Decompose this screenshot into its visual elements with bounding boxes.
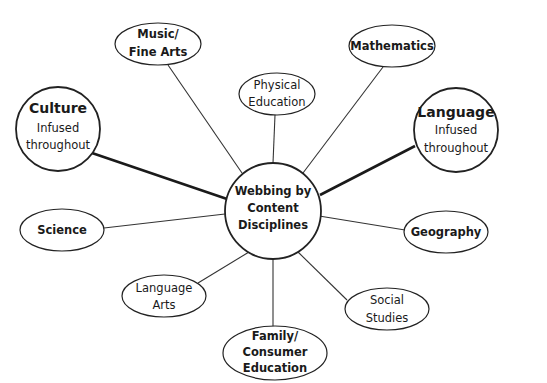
language-arts-line-1: Language bbox=[136, 281, 193, 295]
physical-line-1: Physical bbox=[254, 78, 301, 92]
language-arts-line-2: Arts bbox=[152, 298, 175, 312]
music-line-1: Music/ bbox=[137, 27, 179, 41]
physical-line-2: Education bbox=[248, 95, 305, 109]
social-studies-line-2: Studies bbox=[366, 311, 409, 325]
culture-line-1: Infused bbox=[37, 121, 79, 135]
center-line-3: Disciplines bbox=[238, 218, 308, 232]
family-consumer-education-node: Family/ Consumer Education bbox=[223, 326, 327, 380]
culture-line-2: throughout bbox=[26, 138, 91, 152]
culture-title: Culture bbox=[29, 100, 87, 116]
language-line-2: throughout bbox=[424, 141, 489, 155]
connector-culture bbox=[92, 153, 227, 199]
family-line-2: Consumer bbox=[242, 345, 307, 359]
family-line-3: Education bbox=[243, 361, 307, 375]
social-studies-node: Social Studies bbox=[345, 288, 429, 330]
geography-line-1: Geography bbox=[411, 225, 482, 239]
connector-language-arts bbox=[198, 252, 249, 283]
language-node: Language Infused throughout bbox=[414, 88, 498, 172]
center-line-1: Webbing by bbox=[235, 184, 312, 198]
connector-music bbox=[168, 65, 242, 173]
connector-science bbox=[104, 214, 225, 228]
music-node: Music/ Fine Arts bbox=[115, 23, 201, 65]
music-line-2: Fine Arts bbox=[129, 45, 188, 59]
connector-language bbox=[320, 146, 415, 195]
science-node: Science bbox=[20, 209, 104, 251]
concept-web-diagram: Webbing by Content Disciplines Culture I… bbox=[0, 0, 547, 383]
language-arts-node: Language Arts bbox=[122, 275, 206, 317]
geography-node: Geography bbox=[404, 211, 488, 253]
connector-geography bbox=[313, 215, 405, 230]
physical-education-node: Physical Education bbox=[239, 73, 315, 115]
family-line-1: Family/ bbox=[252, 329, 299, 343]
language-title: Language bbox=[417, 104, 494, 120]
science-line-1: Science bbox=[37, 223, 87, 237]
mathematics-line-1: Mathematics bbox=[350, 39, 434, 53]
connector-physical bbox=[273, 115, 275, 163]
center-line-2: Content bbox=[247, 201, 299, 215]
center-node: Webbing by Content Disciplines bbox=[225, 163, 321, 259]
culture-node: Culture Infused throughout bbox=[16, 87, 100, 171]
connector-mathematics bbox=[303, 67, 383, 173]
language-line-1: Infused bbox=[435, 123, 477, 137]
social-studies-line-1: Social bbox=[370, 293, 404, 307]
connector-social-studies bbox=[298, 252, 347, 300]
mathematics-node: Mathematics bbox=[349, 25, 435, 67]
